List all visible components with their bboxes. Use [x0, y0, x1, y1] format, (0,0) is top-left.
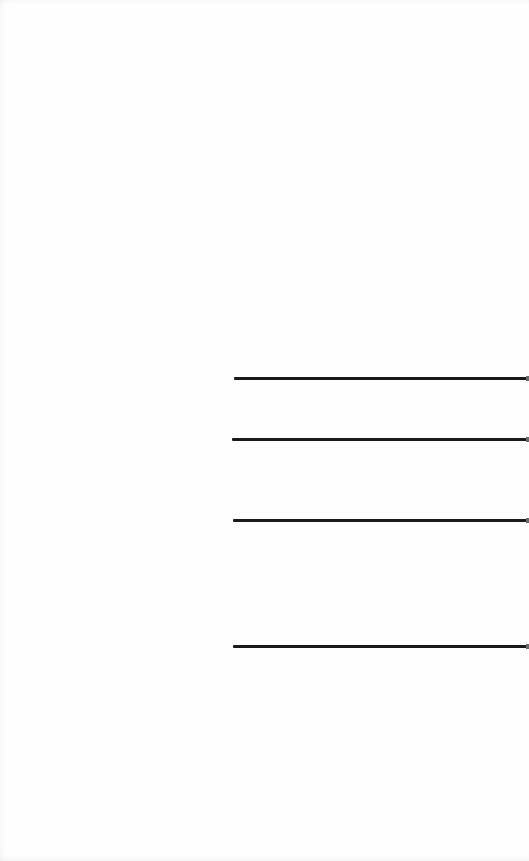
document-page [0, 0, 529, 861]
blank-line-4 [233, 645, 529, 648]
blank-line-1 [234, 377, 529, 380]
blank-line-2 [232, 438, 529, 441]
blank-line-3 [233, 519, 529, 522]
